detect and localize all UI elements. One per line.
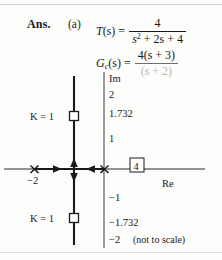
compensator-lhs-symbol: G xyxy=(96,56,105,70)
page-rule-top xyxy=(0,4,222,5)
textbook-answer-figure: Ans. (a) T(s) = 4 s2 + 2s + 4 Gc(s) = 4(… xyxy=(0,0,222,260)
equation-lhs-arg: (s) xyxy=(103,24,116,38)
compensator-lhs-arg: (s) xyxy=(108,56,121,70)
gain-label-lower: K = 1 xyxy=(30,213,54,224)
locus-arrow-right-icon xyxy=(53,165,62,172)
gain-marker-upper-icon xyxy=(70,112,79,121)
fraction-denominator: s2 + 2s + 4 xyxy=(129,31,186,46)
equation-lhs-symbol: T xyxy=(96,24,103,38)
equation-equals: = xyxy=(118,24,125,38)
gain-label-upper: K = 1 xyxy=(30,111,54,122)
scale-note: (not to scale) xyxy=(133,234,185,246)
real-tick-label-minus-2: −2 xyxy=(27,175,38,186)
compensator-numerator: 4(s + 3) xyxy=(135,49,178,63)
imaginary-axis-title: Im xyxy=(109,73,121,84)
locus-arrow-left-icon xyxy=(86,165,95,172)
fraction-transfer-function: 4 s2 + 2s + 4 xyxy=(129,17,186,46)
part-label: (a) xyxy=(68,18,81,30)
compensator-equals: = xyxy=(124,56,131,70)
denominator-remainder: + 2s + 4 xyxy=(141,32,183,46)
locus-arrow-up-icon xyxy=(70,158,78,167)
gain-marker-lower-icon xyxy=(70,214,79,223)
imag-tick-label-1: 1 xyxy=(109,133,114,144)
imag-tick-label-1p732: 1.732 xyxy=(109,108,133,119)
imag-tick-label-minus-2: −2 xyxy=(109,234,120,245)
imag-tick-label-2: 2 xyxy=(109,89,114,100)
answer-label: Ans. xyxy=(27,17,51,32)
page-rule-bottom xyxy=(0,252,222,253)
boxed-value-label: 4 xyxy=(134,161,140,172)
fraction-numerator: 4 xyxy=(129,17,186,31)
equation-transfer-function: T(s) = 4 s2 + 2s + 4 xyxy=(96,18,187,47)
real-axis-title: Re xyxy=(162,178,174,189)
root-locus-plot: K = 1 K = 1 Im Re 2 1.732 1 −1 −1.732 −2… xyxy=(0,70,222,260)
locus-arrow-down-icon xyxy=(70,173,78,182)
imag-tick-label-minus-1: −1 xyxy=(109,192,120,203)
imag-tick-label-minus-1p732: −1.732 xyxy=(109,217,139,228)
